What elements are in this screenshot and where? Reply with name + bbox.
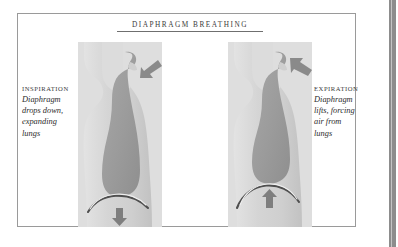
caption-expiration-heading: EXPIRATION [314,84,358,94]
caption-inspiration-line-1: Diaphragm [22,94,69,105]
caption-inspiration-line-2: drops down, [22,105,69,116]
title-underline-rule [117,31,263,32]
illustration-plate: DIAPHRAGM BREATHING [0,0,398,247]
caption-expiration-line-3: air from [314,116,358,127]
caption-inspiration-line-3: expanding [22,116,69,127]
caption-inspiration-heading: INSPIRATION [22,84,69,94]
page-title: DIAPHRAGM BREATHING [100,20,280,29]
caption-expiration: EXPIRATION Diaphragm lifts, forcing air … [314,84,358,139]
caption-expiration-line-4: lungs [314,128,358,139]
expiration-diagram [228,42,312,227]
caption-inspiration: INSPIRATION Diaphragm drops down, expand… [22,84,69,139]
caption-expiration-line-2: lifts, forcing [314,105,358,116]
caption-expiration-line-1: Diaphragm [314,94,358,105]
figure-expiration [228,42,312,227]
inspiration-diagram [78,42,162,227]
right-edge-band-highlight [391,0,392,247]
caption-inspiration-line-4: lungs [22,128,69,139]
figure-inspiration [78,42,162,227]
title-block: DIAPHRAGM BREATHING [100,20,280,32]
